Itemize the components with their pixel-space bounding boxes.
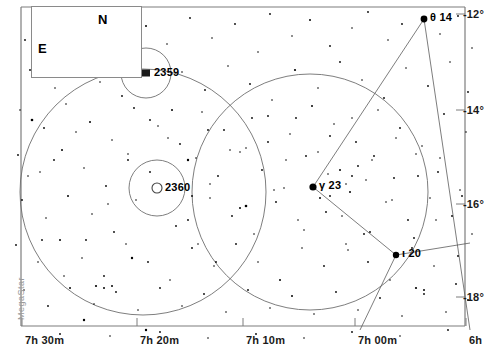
dec-tick-label-1: -14°	[463, 104, 484, 116]
ra-tick-label-0: 7h 30m	[25, 334, 64, 346]
star-label-2: ι 20	[402, 247, 421, 259]
star-label-1: γ 23	[319, 179, 341, 191]
dec-tick-label-3: -18°	[463, 291, 484, 303]
ra-tick-label-3: 7h 00m	[358, 334, 397, 346]
star-label-0: θ 14	[430, 11, 452, 23]
ra-tick-label-2: 7h 10m	[246, 334, 285, 346]
ra-tick-label-4: 6h	[469, 334, 482, 346]
compass-north-label: N	[98, 12, 107, 27]
ra-tick-label-1: 7h 20m	[140, 334, 179, 346]
compass-rose-box: N E	[31, 6, 142, 78]
dso-label-2360: 2360	[165, 181, 190, 193]
dso-label-2359: 2359	[154, 66, 179, 78]
star-chart: N E 23592360θ 14γ 23ι 207h 30m7h 20m7h 1…	[0, 0, 486, 348]
megastar-watermark: MegaStar	[16, 262, 26, 320]
compass-east-label: E	[38, 41, 47, 56]
dec-tick-label-0: -12°	[463, 8, 484, 20]
dec-tick-label-2: -16°	[463, 198, 484, 210]
